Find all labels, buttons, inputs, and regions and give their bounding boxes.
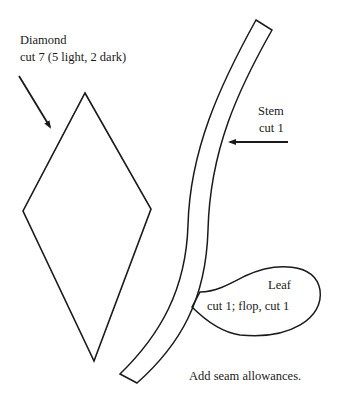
stem-instruction: cut 1 [259, 120, 284, 137]
stem-shape [120, 20, 272, 383]
seam-allowance-note: Add seam allowances. [189, 368, 301, 385]
diamond-arrow [19, 76, 50, 127]
stem-name: Stem [258, 103, 284, 120]
diamond-shape [23, 93, 151, 361]
leaf-name: Leaf [268, 277, 291, 294]
diamond-instruction: cut 7 (5 light, 2 dark) [20, 49, 126, 66]
leaf-instruction: cut 1; flop, cut 1 [207, 298, 289, 315]
diamond-name: Diamond [20, 32, 67, 49]
